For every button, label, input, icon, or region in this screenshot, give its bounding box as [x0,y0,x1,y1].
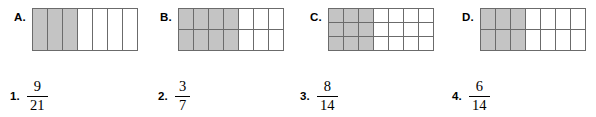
grid-cell-shaded [209,9,224,30]
grid-cell-shaded [194,9,209,30]
grid-cell-empty [254,30,269,51]
grid-cell-shaded [481,9,496,30]
grid-cell-empty [389,23,404,37]
fraction-question-2[interactable]: 2.37 [158,78,190,114]
diagram-option-b[interactable]: B. [160,8,284,58]
question-number: 4. [452,90,462,102]
grid-cell-empty [541,30,556,51]
grid-cell-shaded [496,30,511,51]
fraction-grid [32,8,138,51]
grid-cell-empty [571,30,586,51]
grid-cell-empty [541,9,556,30]
fraction-value: 814 [317,79,338,112]
grid-cell-empty [526,9,541,30]
diagram-option-a[interactable]: A. [14,8,138,58]
grid-cell-shaded [48,9,63,51]
grid-cell-empty [419,9,434,23]
grid-cell-shaded [179,9,194,30]
grid-cell-shaded [329,23,344,37]
question-number: 1. [10,90,20,102]
question-number: 3. [300,90,310,102]
grid-cell-empty [93,9,108,51]
grid-cell-shaded [481,30,496,51]
grid-cell-shaded [344,37,359,51]
diagram-option-label: C. [310,8,322,24]
grid-cell-shaded [344,23,359,37]
grid-cell-empty [254,9,269,30]
grid-cell-shaded [209,30,224,51]
grid-row [179,9,284,30]
grid-cell-empty [239,30,254,51]
grid-cell-empty [78,9,93,51]
grid-cell-shaded [329,9,344,23]
grid-cell-empty [556,9,571,30]
grid-cell-empty [269,30,284,51]
diagram-option-c[interactable]: C. [310,8,434,58]
grid-cell-empty [419,37,434,51]
grid-cell-empty [404,37,419,51]
diagram-option-label: D. [462,8,474,24]
fraction-value: 921 [27,79,48,112]
grid-cell-empty [108,9,123,51]
grid-cell-shaded [33,9,48,51]
grid-cell-shaded [359,9,374,23]
grid-cell-empty [239,9,254,30]
grid-cell-empty [389,9,404,23]
diagram-row: A.B.C.D. [0,0,596,62]
grid-cell-shaded [329,37,344,51]
question-number: 2. [158,90,168,102]
grid-cell-empty [123,9,138,51]
fraction-numerator: 3 [176,79,189,94]
grid-cell-empty [269,9,284,30]
grid-cell-shaded [511,30,526,51]
grid-cell-empty [419,23,434,37]
grid-row [481,9,586,30]
grid-row [329,9,434,23]
diagram-option-d[interactable]: D. [462,8,586,58]
fraction-question-3[interactable]: 3.814 [300,78,338,114]
grid-cell-shaded [359,37,374,51]
grid-cell-shaded [511,9,526,30]
fraction-question-4[interactable]: 4.614 [452,78,490,114]
grid-cell-empty [389,37,404,51]
fraction-grid [480,8,586,51]
grid-cell-shaded [179,30,194,51]
fraction-numerator: 9 [31,79,44,94]
grid-cell-shaded [63,9,78,51]
diagram-option-label: B. [160,8,172,24]
fraction-numerator: 8 [321,79,334,94]
grid-cell-shaded [344,9,359,23]
grid-cell-empty [556,30,571,51]
grid-row [33,9,138,51]
fraction-denominator: 21 [27,98,48,113]
fraction-numerator: 6 [473,79,486,94]
fraction-value: 614 [469,79,490,112]
fraction-value: 37 [175,79,190,112]
grid-cell-empty [571,9,586,30]
fraction-denominator: 14 [317,98,338,113]
grid-row [329,23,434,37]
fraction-denominator: 14 [469,98,490,113]
fraction-question-1[interactable]: 1.921 [10,78,48,114]
grid-cell-empty [374,23,389,37]
grid-cell-empty [526,30,541,51]
grid-cell-shaded [224,30,239,51]
fraction-matching-worksheet: A.B.C.D. 1.9212.373.8144.614 [0,0,596,117]
fraction-denominator: 7 [176,98,189,113]
grid-cell-empty [374,37,389,51]
diagram-option-label: A. [14,8,26,24]
grid-row [481,30,586,51]
grid-cell-shaded [224,9,239,30]
grid-cell-shaded [359,23,374,37]
grid-cell-shaded [194,30,209,51]
fraction-grid [178,8,284,51]
grid-row [179,30,284,51]
grid-cell-shaded [496,9,511,30]
grid-cell-empty [404,9,419,23]
grid-cell-empty [374,9,389,23]
fraction-row: 1.9212.373.8144.614 [0,72,596,117]
grid-cell-empty [404,23,419,37]
grid-row [329,37,434,51]
fraction-grid [328,8,434,51]
